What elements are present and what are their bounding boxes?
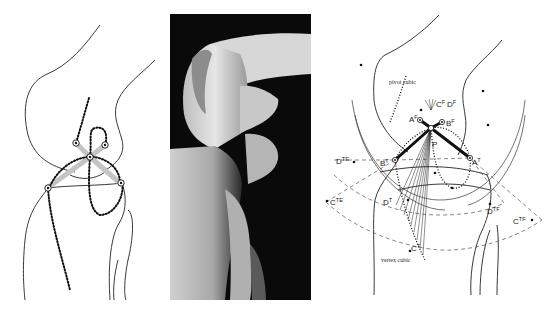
label-DF: DF [447,99,457,109]
label-BF: BF [446,118,455,128]
pivot-cubic-label: pivot cubic [389,79,416,85]
label-BT: BT [380,158,389,168]
label-DT: DT [383,197,393,207]
right-diagram-panel: pivot cubic vertex cubic AF BF CF DF P B… [311,0,547,311]
ligament-bands [50,143,120,186]
label-P: P [432,140,437,149]
photo-rendering [170,14,311,300]
label-DTE: DTE [336,156,349,166]
cubic-construction-drawing: pivot cubic vertex cubic AF BF CF DF P B… [311,0,547,311]
left-diagram-panel [0,0,170,311]
knee-linkage-drawing [0,0,170,311]
label-AF: AF [409,114,418,124]
vertex-cubic-label: vertex cubic [381,257,411,263]
label-DTF: DTF [487,206,500,216]
construction-points [326,64,534,253]
label-CTF: CTF [513,216,526,226]
label-CTE: CTE [330,197,343,207]
label-CF: CF [436,99,446,109]
knee-dissection-photo [170,14,311,300]
label-CT: CT [411,243,421,253]
label-AT: AT [472,157,481,167]
